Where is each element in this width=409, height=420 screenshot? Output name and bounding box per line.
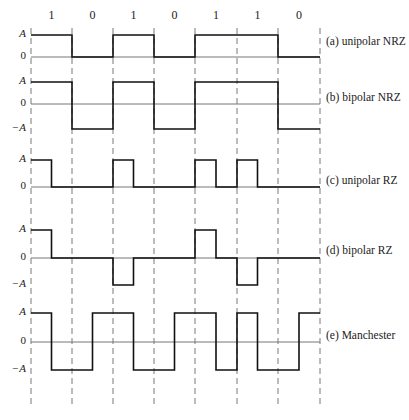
axis-level-label: A bbox=[2, 222, 26, 234]
bit-value: 0 bbox=[296, 8, 302, 23]
axis-level-label: −A bbox=[2, 277, 26, 289]
bit-value: 1 bbox=[213, 8, 219, 23]
axis-level-label: 0 bbox=[2, 250, 26, 262]
axis-level-label: A bbox=[2, 27, 26, 39]
waveform-label: (c) unipolar RZ bbox=[326, 174, 398, 186]
axis-level-label: −A bbox=[2, 362, 26, 374]
axis-level-label: 0 bbox=[2, 49, 26, 61]
axis-level-label: 0 bbox=[2, 179, 26, 191]
waveform-label: (e) Manchester bbox=[326, 329, 395, 341]
bit-value: 1 bbox=[255, 8, 261, 23]
bit-value: 0 bbox=[90, 8, 96, 23]
waveform-label: (b) bipolar NRZ bbox=[326, 91, 401, 103]
bit-value: 0 bbox=[172, 8, 178, 23]
axis-level-label: A bbox=[2, 74, 26, 86]
waveform-label: (d) bipolar RZ bbox=[326, 244, 392, 256]
axis-level-label: 0 bbox=[2, 96, 26, 108]
bit-value: 1 bbox=[131, 8, 137, 23]
unipolar-nrz-waveform bbox=[31, 35, 320, 57]
axis-level-label: A bbox=[2, 305, 26, 317]
axis-level-label: 0 bbox=[2, 334, 26, 346]
waveform-label: (a) unipolar NRZ bbox=[326, 35, 406, 47]
bipolar-rz-waveform bbox=[31, 230, 320, 285]
unipolar-rz-waveform bbox=[31, 160, 320, 187]
line-code-diagram bbox=[0, 0, 409, 420]
bit-value: 1 bbox=[49, 8, 55, 23]
axis-level-label: −A bbox=[2, 121, 26, 133]
bipolar-nrz-waveform bbox=[31, 82, 320, 129]
axis-level-label: A bbox=[2, 152, 26, 164]
